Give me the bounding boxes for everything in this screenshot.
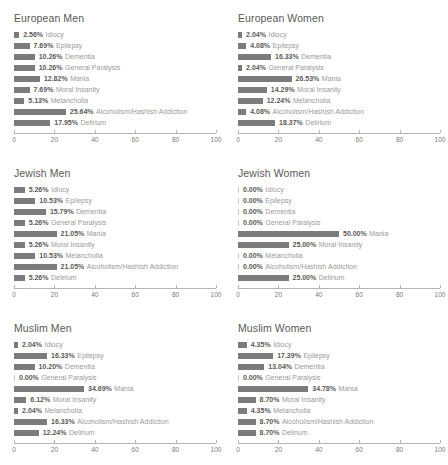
bar-row: 0.00%Dementia — [238, 206, 440, 217]
bar-row: 21.05%Alcoholism/Hashish Addiction — [14, 261, 216, 272]
chart-panel: Muslim Men2.04%Idiocy16.33%Epilepsy10.20… — [0, 310, 224, 465]
bar — [14, 98, 24, 104]
bar — [14, 32, 19, 38]
small-multiples-chart-grid: European Men2.56%Idiocy7.69%Epilepsy10.2… — [0, 0, 448, 465]
bar-label: 26.53%Mania — [296, 75, 341, 83]
bar-row: 0.00%Idiocy — [238, 184, 440, 195]
bar — [238, 353, 273, 359]
axis-tick — [176, 285, 177, 288]
bar-category: General Paralysis — [265, 219, 320, 226]
bar-category: Delirium — [69, 429, 95, 436]
bar-row: 5.26%Idiocy — [14, 184, 216, 195]
bar-label: 7.69%Moral Insanity — [34, 86, 100, 94]
axis-tick — [278, 130, 279, 133]
bar-row: 2.04%Melancholia — [14, 405, 216, 416]
axis-tick — [216, 285, 217, 288]
bar-category: Dementia — [65, 53, 95, 60]
bar — [14, 87, 30, 93]
bar-label: 12.24%Melancholia — [267, 97, 331, 105]
axis-tick — [95, 130, 96, 133]
bar-value: 4.35% — [251, 407, 271, 414]
bar-value: 5.26% — [29, 274, 49, 281]
bar-row: 15.79%Dementia — [14, 206, 216, 217]
bar-label: 4.08%Alcoholism/Hashish Addiction — [250, 108, 364, 116]
bar-category: General Paralysis — [51, 219, 106, 226]
axis-tick-label: 60 — [132, 136, 139, 143]
bar — [238, 87, 267, 93]
axis-tick-label: 20 — [51, 291, 58, 298]
axis-tick-label: 20 — [275, 136, 282, 143]
axis-tick — [54, 285, 55, 288]
axis-tick — [95, 285, 96, 288]
axis-line — [14, 443, 216, 444]
panel-title: Muslim Men — [14, 322, 72, 334]
bar-value: 13.04% — [268, 363, 292, 370]
axis-tick — [216, 130, 217, 133]
bar-row: 12.24%Melancholia — [238, 95, 440, 106]
bar-category: Melancholia — [51, 97, 88, 104]
bar-category: Epilepsy — [77, 352, 103, 359]
bar-value: 6.12% — [30, 396, 50, 403]
bar-label: 8.70%Alcoholism/Hashish Addiction — [260, 418, 374, 426]
bar-value: 26.53% — [296, 75, 320, 82]
bar-value: 12.24% — [43, 429, 67, 436]
bar-value: 10.26% — [39, 64, 63, 71]
bar — [14, 120, 50, 126]
bar — [238, 76, 292, 82]
axis-tick-label: 100 — [211, 446, 222, 453]
bar-row: 17.39%Epilepsy — [238, 350, 440, 361]
bar-label: 25.64%Alcoholism/Hashish Addiction — [70, 108, 188, 116]
axis-tick-label: 100 — [435, 446, 446, 453]
axis-tick-label: 0 — [236, 291, 240, 298]
bar-row: 16.33%Alcoholism/Hashish Addiction — [14, 416, 216, 427]
bar-row: 14.29%Moral Insanity — [238, 84, 440, 95]
bar-value: 25.00% — [293, 274, 317, 281]
bar-value: 15.79% — [50, 208, 74, 215]
bar-row: 0.00%General Paralysis — [238, 372, 440, 383]
bar-row: 34.78%Mania — [238, 383, 440, 394]
bar — [14, 209, 46, 215]
axis-tick — [440, 440, 441, 443]
panel-title: Muslim Women — [238, 322, 311, 334]
axis-tick — [319, 130, 320, 133]
bar-value: 16.33% — [51, 418, 75, 425]
bar-value: 25.00% — [293, 241, 317, 248]
bar-label: 21.05%Alcoholism/Hashish Addiction — [61, 263, 179, 271]
bar-category: Melancholia — [293, 97, 330, 104]
axis-tick — [135, 440, 136, 443]
bar-label: 0.00%General Paralysis — [243, 374, 321, 382]
bar-label: 17.95%Delirium — [54, 119, 106, 127]
bar-value: 4.08% — [250, 42, 270, 49]
bar-label: 10.26%Dementia — [39, 53, 95, 61]
axis-tick-label: 0 — [12, 136, 16, 143]
bar-row: 10.26%General Paralysis — [14, 62, 216, 73]
x-axis: 020406080100 — [14, 133, 216, 151]
bar-row: 8.70%Delirium — [238, 427, 440, 438]
bar-row: 2.04%General Paralysis — [238, 62, 440, 73]
bar-value: 0.00% — [243, 219, 263, 226]
bar-label: 12.24%Delirium — [43, 429, 95, 437]
bar-value: 2.04% — [22, 407, 42, 414]
bar-label: 0.00%Dementia — [243, 208, 295, 216]
bar-category: Mania — [114, 385, 133, 392]
bar-row: 16.33%Dementia — [238, 51, 440, 62]
axis-tick-label: 100 — [211, 136, 222, 143]
bar-category: General Paralysis — [41, 374, 96, 381]
bar — [14, 198, 35, 204]
bar-label: 0.00%General Paralysis — [19, 374, 97, 382]
bar-value: 17.39% — [277, 352, 301, 359]
axis-tick-label: 40 — [91, 291, 98, 298]
bar-value: 4.08% — [250, 108, 270, 115]
bar-value: 21.05% — [61, 230, 85, 237]
axis-tick — [359, 130, 360, 133]
bar-row: 8.70%Moral Insanity — [238, 394, 440, 405]
bar-label: 13.04%Dementia — [268, 363, 324, 371]
bar-category: Melancholia — [44, 407, 81, 414]
axis-tick — [135, 130, 136, 133]
bar-label: 10.20%Dementia — [39, 363, 95, 371]
bar-category: Alcoholism/Hashish Addiction — [77, 418, 168, 425]
axis-tick-label: 0 — [236, 446, 240, 453]
axis-tick-label: 0 — [236, 136, 240, 143]
bar-category: Epilepsy — [56, 42, 82, 49]
bar-value: 7.69% — [34, 86, 54, 93]
